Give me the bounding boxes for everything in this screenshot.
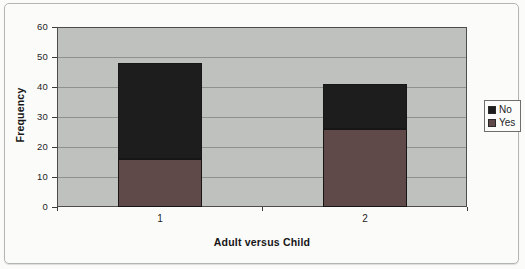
legend-label-no: No bbox=[499, 105, 512, 115]
x-category-label: 2 bbox=[335, 213, 395, 224]
gridline bbox=[58, 57, 466, 58]
y-tick-mark bbox=[52, 117, 57, 118]
bar-segment-yes bbox=[323, 129, 407, 207]
y-tick-mark bbox=[52, 57, 57, 58]
y-tick-mark bbox=[52, 27, 57, 28]
y-axis-title: Frequency bbox=[14, 35, 28, 195]
legend-item-no: No bbox=[488, 105, 517, 115]
x-axis-title: Adult versus Child bbox=[112, 236, 412, 248]
chart-figure: 010203040506012 Frequency Adult versus C… bbox=[0, 0, 525, 269]
yes-series-swatch-icon bbox=[488, 119, 496, 127]
y-tick-label: 0 bbox=[14, 202, 48, 212]
legend-item-yes: Yes bbox=[488, 118, 517, 128]
no-series-swatch-icon bbox=[488, 106, 496, 114]
x-category-label: 1 bbox=[130, 213, 190, 224]
y-tick-mark bbox=[52, 177, 57, 178]
bar-segment-yes bbox=[118, 159, 202, 207]
y-tick-mark bbox=[52, 147, 57, 148]
bar-segment-no bbox=[323, 84, 407, 129]
y-tick-mark bbox=[52, 87, 57, 88]
x-tick-mark bbox=[262, 207, 263, 211]
bar-segment-no bbox=[118, 63, 202, 159]
y-tick-label: 60 bbox=[14, 22, 48, 32]
x-tick-mark bbox=[57, 207, 58, 211]
x-tick-mark bbox=[467, 207, 468, 211]
legend: No Yes bbox=[484, 100, 521, 132]
legend-label-yes: Yes bbox=[499, 118, 515, 128]
